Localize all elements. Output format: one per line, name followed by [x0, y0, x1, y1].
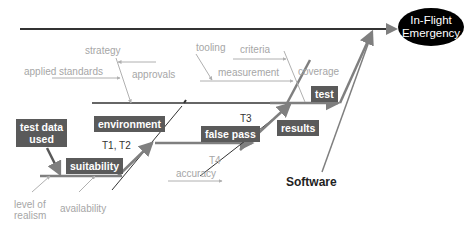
box-environment: environment [94, 116, 165, 132]
effect-line2: Emergency [402, 27, 460, 39]
box-test-data-used-line1: test data [20, 121, 63, 133]
effect-in-flight-emergency: In-FlightEmergency [398, 8, 464, 46]
label-level-of-line1: level of [14, 199, 46, 210]
label-t3: T3 [240, 113, 252, 124]
label-measurement: measurement [218, 67, 279, 78]
box-false-pass: false pass [201, 126, 260, 142]
box-results: results [277, 120, 319, 136]
effect-line1: In-Flight [410, 14, 452, 26]
fishbone-lines [0, 0, 468, 226]
label-t1-t2: T1, T2 [102, 140, 131, 151]
category-software: Software [286, 175, 337, 189]
label-level-of-realism: level ofrealism [14, 199, 46, 221]
label-t4: T4 [209, 155, 221, 166]
label-availability: availability [60, 203, 106, 214]
label-applied-standards: applied standards [24, 66, 103, 77]
box-test-data-used-line2: used [29, 133, 54, 145]
box-suitability: suitability [66, 158, 123, 174]
label-strategy: strategy [85, 45, 121, 56]
label-tooling: tooling [196, 42, 225, 53]
label-coverage: coverage [298, 66, 339, 77]
box-test: test [311, 86, 338, 102]
label-approvals: approvals [132, 69, 175, 80]
label-criteria: criteria [240, 44, 270, 55]
box-test-data-used: test dataused [16, 119, 67, 147]
label-level-of-line2: realism [14, 210, 46, 221]
label-accuracy: accuracy [176, 168, 216, 179]
